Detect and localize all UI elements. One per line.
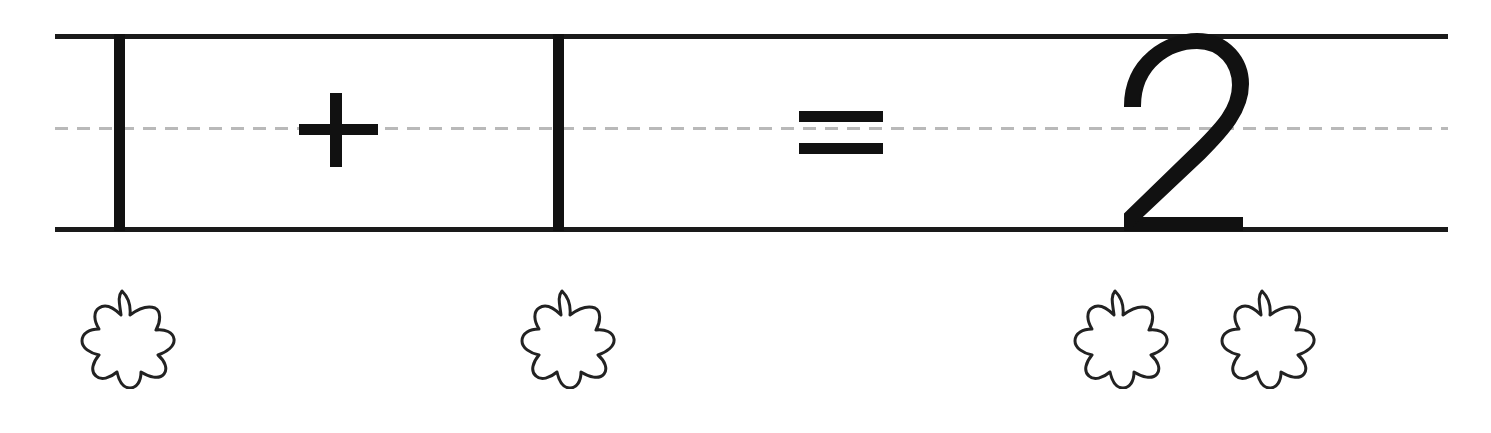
counter-flower: flower 3 bbox=[1061, 283, 1169, 389]
digit-two-sum: 2 bbox=[1112, 28, 1257, 236]
counter-flower-label: flower 1 bbox=[68, 389, 69, 390]
digit-one-first-addend-value: 1 bbox=[114, 34, 115, 35]
digit-one-second-addend-value: 1 bbox=[553, 34, 554, 35]
counter-flower: flower 1 bbox=[68, 283, 176, 389]
counter-flower-label: flower 4 bbox=[1208, 389, 1209, 390]
digit-one-second-addend: 1 bbox=[553, 34, 564, 231]
counter-flower-label: flower 3 bbox=[1061, 389, 1062, 390]
equals-sign-top-bar bbox=[799, 111, 883, 122]
counter-flower-label: flower 2 bbox=[508, 389, 509, 390]
flower-icon bbox=[508, 283, 616, 389]
digit-one-first-addend: 1 bbox=[114, 34, 125, 231]
flower-icon bbox=[1061, 283, 1169, 389]
digit-two-sum-value: 2 bbox=[1112, 236, 1113, 237]
equals-sign-bottom-bar bbox=[799, 143, 883, 154]
flower-icon bbox=[68, 283, 176, 389]
plus-sign-vertical-bar bbox=[330, 93, 342, 167]
equals-sign-icon: = bbox=[799, 111, 883, 154]
counter-flower: flower 2 bbox=[508, 283, 616, 389]
plus-sign-value: + bbox=[299, 93, 300, 94]
flower-icon bbox=[1208, 283, 1316, 389]
plus-sign-icon: + bbox=[299, 93, 378, 167]
counter-flower: flower 4 bbox=[1208, 283, 1316, 389]
digit-two-glyph bbox=[1112, 28, 1257, 236]
worksheet-canvas: 1 + 1 = 2 flower 1 flower 2 flow bbox=[0, 0, 1491, 433]
